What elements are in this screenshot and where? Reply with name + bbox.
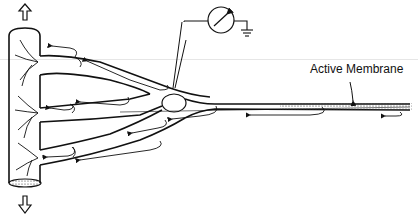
hollow-up-arrow-icon	[19, 4, 31, 20]
active-membrane-region	[280, 103, 412, 110]
ground-icon	[234, 21, 253, 36]
cylinder-cross-section	[9, 179, 41, 187]
neuron-diagram	[0, 0, 418, 218]
inner-branches	[15, 40, 38, 176]
voltmeter-icon	[208, 7, 234, 33]
soma-recording-site	[162, 94, 186, 112]
microelectrode	[173, 21, 208, 88]
dendritic-cylinder	[9, 28, 40, 183]
active-membrane-pointer	[350, 82, 353, 101]
hollow-down-arrow-icon	[19, 196, 31, 213]
active-membrane-label: Active Membrane	[310, 62, 403, 76]
